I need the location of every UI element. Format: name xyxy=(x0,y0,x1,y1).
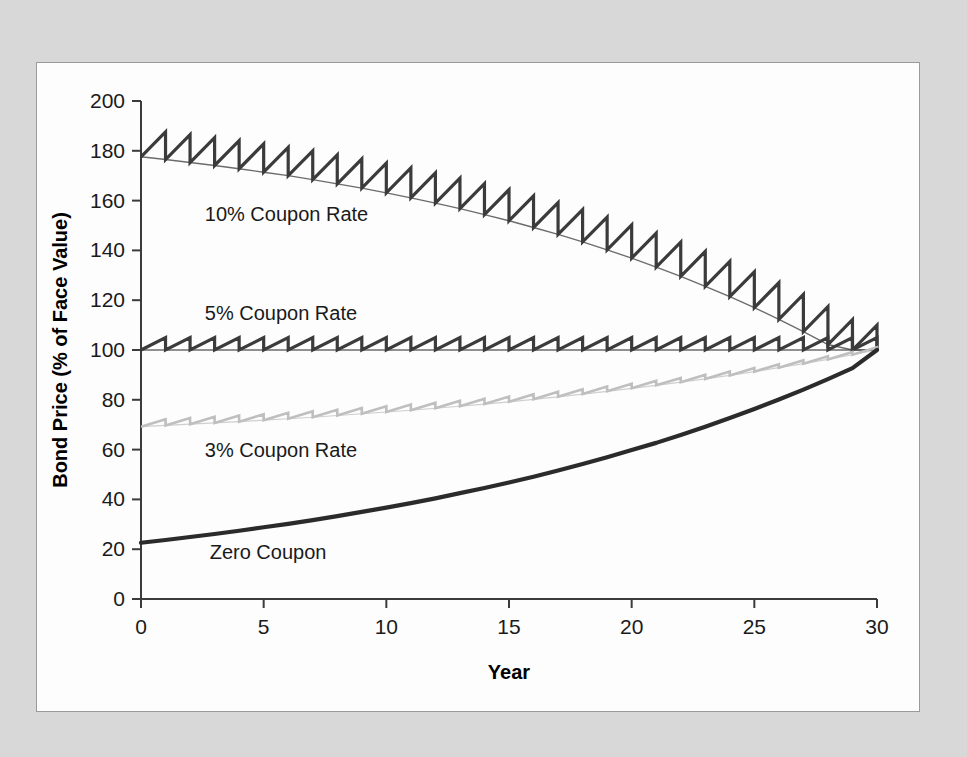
series-inline-label: 3% Coupon Rate xyxy=(205,439,357,461)
x-tick-label: 30 xyxy=(865,615,888,638)
series-inline-label: 10% Coupon Rate xyxy=(205,203,368,225)
chart-canvas: 020406080100120140160180200 051015202530… xyxy=(37,63,921,713)
x-tick-label: 25 xyxy=(743,615,766,638)
y-tick-label: 60 xyxy=(102,438,125,461)
y-tick-label: 20 xyxy=(102,537,125,560)
x-tick-label: 15 xyxy=(497,615,520,638)
x-tick-label: 10 xyxy=(375,615,398,638)
series-layer xyxy=(141,132,877,543)
x-tick-label: 0 xyxy=(135,615,147,638)
y-tick-label: 80 xyxy=(102,388,125,411)
series-inline-label: 5% Coupon Rate xyxy=(205,302,357,324)
series-envelope-line xyxy=(141,350,877,427)
y-tick-label: 200 xyxy=(90,89,125,112)
series-sawtooth-line xyxy=(141,347,877,426)
x-tick-label: 5 xyxy=(258,615,270,638)
figure-outer-background: 020406080100120140160180200 051015202530… xyxy=(0,0,967,757)
y-axis: 020406080100120140160180200 xyxy=(90,89,141,610)
series-annotations: 10% Coupon Rate5% Coupon Rate3% Coupon R… xyxy=(205,203,368,564)
y-axis-title: Bond Price (% of Face Value) xyxy=(49,212,71,488)
series-inline-label: Zero Coupon xyxy=(210,541,327,563)
bond-price-chart: 020406080100120140160180200 051015202530… xyxy=(37,63,921,713)
x-axis-title: Year xyxy=(488,661,530,683)
figure-panel: 020406080100120140160180200 051015202530… xyxy=(36,62,920,712)
x-tick-label: 20 xyxy=(620,615,643,638)
y-tick-label: 140 xyxy=(90,238,125,261)
y-tick-label: 120 xyxy=(90,288,125,311)
y-tick-label: 100 xyxy=(90,338,125,361)
y-tick-label: 40 xyxy=(102,487,125,510)
y-tick-label: 180 xyxy=(90,139,125,162)
x-axis: 051015202530 xyxy=(135,599,889,638)
y-tick-label: 0 xyxy=(113,587,125,610)
series-sawtooth-line xyxy=(141,338,877,350)
y-tick-label: 160 xyxy=(90,189,125,212)
